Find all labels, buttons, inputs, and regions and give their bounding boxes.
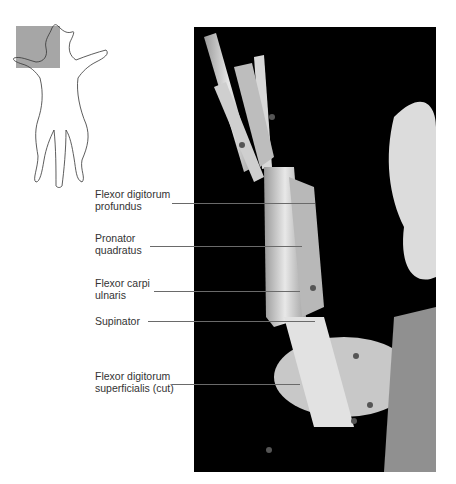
leader-line-flexor-digitorum-superficialis [172, 384, 300, 385]
dissection-photo [194, 27, 436, 472]
label-flexor-digitorum-profundus: Flexor digitorum profundus [95, 188, 170, 212]
label-pronator-quadratus: Pronator quadratus [95, 232, 142, 256]
leader-line-flexor-digitorum-profundus [172, 203, 315, 204]
leader-line-pronator-quadratus [150, 246, 302, 247]
label-supinator: Supinator [95, 315, 140, 327]
leader-line-flexor-carpi-ulnaris [154, 291, 300, 292]
orientation-cat-icon [10, 20, 110, 190]
leader-line-supinator [148, 321, 315, 322]
forearm-dissection-image [194, 27, 436, 472]
label-flexor-digitorum-superficialis: Flexor digitorum superficialis (cut) [95, 370, 174, 394]
label-flexor-carpi-ulnaris: Flexor carpi ulnaris [95, 277, 150, 301]
